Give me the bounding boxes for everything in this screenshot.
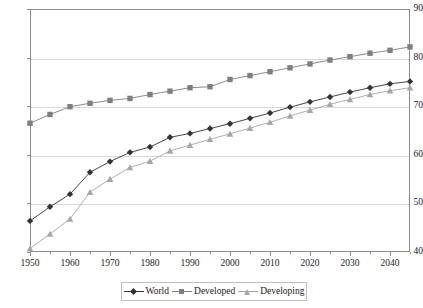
life-expectancy-line-chart: 405060708090 195019601970198019902000201… <box>0 0 423 308</box>
triangle-marker-icon <box>238 287 258 296</box>
legend-item-world[interactable]: World <box>124 287 170 297</box>
series-line <box>30 88 410 249</box>
legend-item-developing[interactable]: Developing <box>238 287 304 297</box>
data-point-marker <box>407 84 414 90</box>
data-point-marker <box>287 104 293 110</box>
data-point-marker <box>207 84 212 89</box>
data-point-marker <box>347 89 353 95</box>
data-point-marker <box>227 121 233 127</box>
data-point-marker <box>207 125 213 131</box>
data-point-marker <box>167 134 173 140</box>
data-point-marker <box>87 101 92 106</box>
data-point-marker <box>27 218 33 224</box>
data-point-marker <box>307 61 312 66</box>
data-point-marker <box>147 158 154 164</box>
data-point-marker <box>247 115 253 121</box>
data-point-marker <box>187 130 193 136</box>
series-line <box>30 47 410 123</box>
data-point-marker <box>47 204 53 210</box>
data-point-marker <box>127 164 134 170</box>
data-point-marker <box>127 96 132 101</box>
data-point-marker <box>327 94 333 100</box>
square-marker-icon <box>172 287 192 296</box>
series-developed <box>27 44 412 126</box>
data-point-marker <box>227 77 232 82</box>
legend-label: World <box>146 287 170 297</box>
legend-label: Developing <box>260 287 304 297</box>
legend-label: Developed <box>194 287 235 297</box>
series-line <box>30 81 410 220</box>
data-point-marker <box>247 73 252 78</box>
data-point-marker <box>47 112 52 117</box>
data-point-marker <box>347 54 352 59</box>
chart-legend: World Developed Developing <box>121 282 307 301</box>
diamond-marker-icon <box>124 287 144 296</box>
data-point-marker <box>367 51 372 56</box>
data-point-marker <box>307 99 313 105</box>
data-point-marker <box>167 88 172 93</box>
data-point-marker <box>327 57 332 62</box>
data-point-marker <box>147 144 153 150</box>
data-point-marker <box>87 189 94 195</box>
data-point-marker <box>287 65 292 70</box>
data-point-marker <box>367 85 373 91</box>
data-point-marker <box>107 158 113 164</box>
data-point-marker <box>187 85 192 90</box>
series-world <box>27 78 413 224</box>
data-point-marker <box>407 78 413 84</box>
data-point-marker <box>267 110 273 116</box>
series-layer <box>0 0 423 308</box>
data-point-marker <box>127 149 133 155</box>
data-point-marker <box>387 48 392 53</box>
data-point-marker <box>147 92 152 97</box>
data-point-marker <box>267 69 272 74</box>
data-point-marker <box>267 119 274 125</box>
data-point-marker <box>27 245 34 251</box>
data-point-marker <box>107 176 114 182</box>
data-point-marker <box>67 104 72 109</box>
data-point-marker <box>107 98 112 103</box>
data-point-marker <box>387 81 393 87</box>
data-point-marker <box>47 231 54 237</box>
data-point-marker <box>407 44 412 49</box>
series-developing <box>27 84 414 251</box>
data-point-marker <box>27 121 32 126</box>
legend-item-developed[interactable]: Developed <box>172 287 235 297</box>
